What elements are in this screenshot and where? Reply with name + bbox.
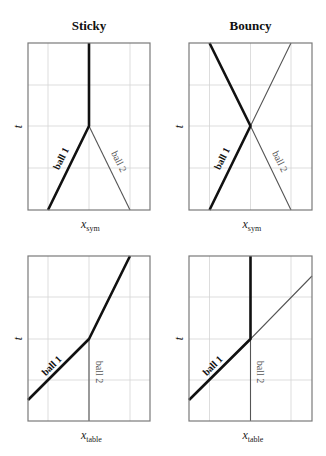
y-axis-label: t bbox=[11, 124, 25, 128]
panel-bouncy-table: txtableball 1ball 2 bbox=[172, 256, 312, 444]
ball-1-worldline bbox=[189, 256, 251, 400]
y-axis-label: t bbox=[172, 124, 186, 128]
ball-2-worldline bbox=[251, 276, 313, 421]
ball-1-worldline bbox=[28, 256, 130, 400]
ball-2-label: ball 2 bbox=[94, 361, 105, 384]
collision-diagram: Stickytxsymball 1ball 2Bouncytxsymball 1… bbox=[0, 0, 326, 456]
ball-2-label: ball 2 bbox=[255, 361, 266, 384]
panel-sticky: Stickytxsymball 1ball 2 bbox=[11, 18, 150, 233]
x-axis-label: xtable bbox=[80, 428, 102, 444]
ball-1-label: ball 1 bbox=[200, 353, 224, 377]
ball-1-label: ball 1 bbox=[39, 353, 63, 377]
panel-title: Bouncy bbox=[230, 18, 272, 33]
ball-2-label: ball 2 bbox=[109, 149, 129, 174]
ball-1-worldline bbox=[48, 43, 89, 210]
ball-2-worldline bbox=[251, 43, 292, 210]
panel-bouncy: Bouncytxsymball 1ball 2 bbox=[172, 18, 312, 233]
y-axis-label: t bbox=[172, 336, 186, 340]
x-axis-label: xsym bbox=[80, 217, 100, 233]
x-axis-label: xtable bbox=[242, 428, 264, 444]
ball-1-worldline bbox=[210, 43, 251, 210]
panel-title: Sticky bbox=[72, 18, 107, 33]
ball-2-label: ball 2 bbox=[270, 149, 290, 174]
panel-sticky-table: txtableball 1ball 2 bbox=[11, 256, 150, 444]
y-axis-label: t bbox=[11, 336, 25, 340]
x-axis-label: xsym bbox=[242, 217, 262, 233]
